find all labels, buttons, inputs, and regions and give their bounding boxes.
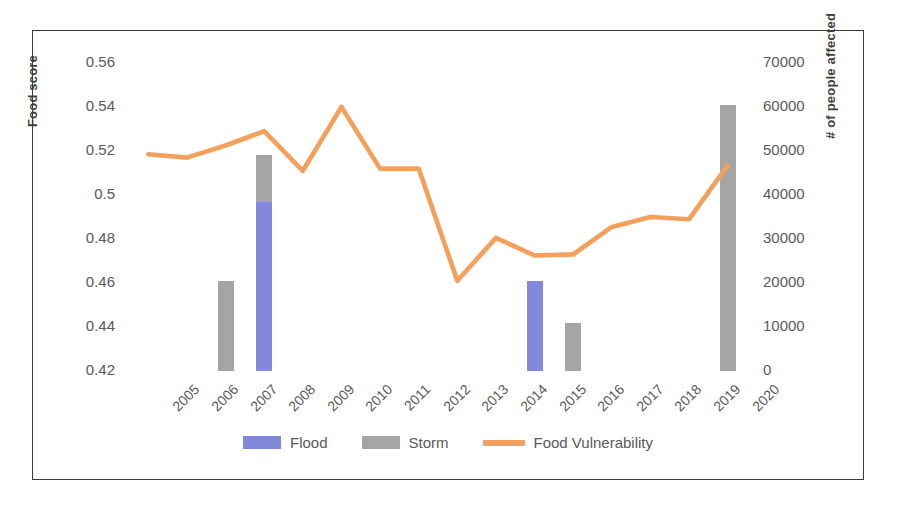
legend-item-food-vulnerability[interactable]: Food Vulnerability [483,434,654,451]
legend-swatch-flood [243,436,281,449]
legend-label: Storm [409,434,449,451]
plot-area: 2005200620072008200920102011201220132014… [33,31,865,481]
legend-label: Flood [290,434,328,451]
chart-frame: Food score # of people affected 0.420.44… [32,30,864,480]
legend-item-storm[interactable]: Storm [362,434,449,451]
legend-swatch-storm [362,436,400,449]
line-layer [33,31,865,481]
legend-label: Food Vulnerability [534,434,654,451]
legend-item-flood[interactable]: Flood [243,434,328,451]
legend-swatch-food-vulnerability [483,440,525,446]
line-food-vulnerability [148,107,727,281]
chart-legend: FloodStormFood Vulnerability [33,434,863,451]
